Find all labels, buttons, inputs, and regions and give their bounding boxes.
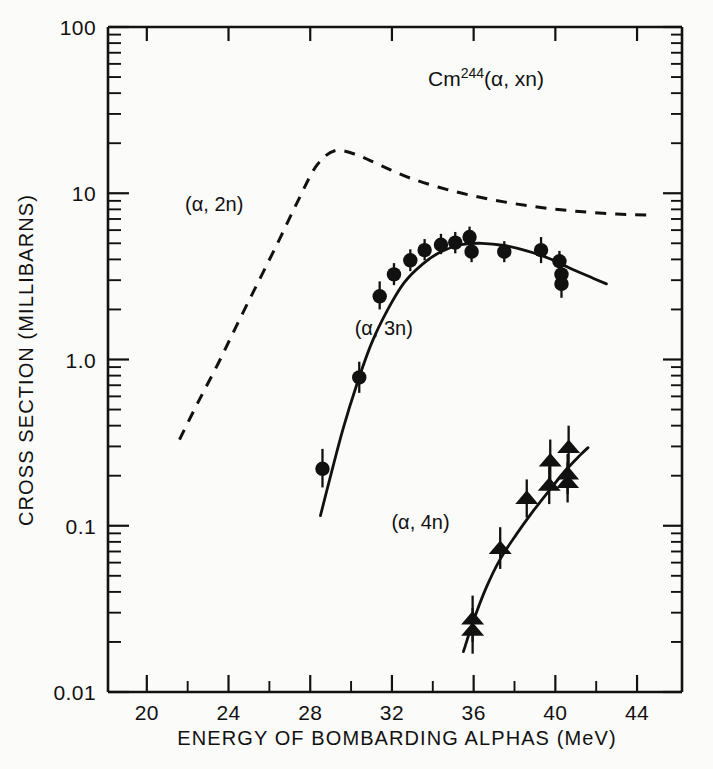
data-point-circle [462,230,476,244]
data-point-triangle [461,611,484,625]
data-point-triangle [557,440,580,454]
series-curve [179,150,649,439]
x-tick-label: 36 [462,701,486,724]
figure-root: 100101.00.10.01 20242832364044 (α, 2n)(α… [0,0,713,769]
data-point-circle [552,254,566,268]
x-tick-label: 32 [380,701,404,724]
data-point-circle [387,267,401,281]
data-point-circle [315,462,329,476]
data-point-circle [534,243,548,257]
y-tick-label: 0.01 [54,681,96,704]
y-axis-title: CROSS SECTION (MILLIBARNS) [15,194,37,526]
data-point-circle [554,277,568,291]
x-tick-label: 24 [216,701,240,724]
x-axis-title: ENERGY OF BOMBARDING ALPHAS (MeV) [177,727,616,749]
data-point-circle [403,253,417,267]
series-label-4n: (α, 4n) [391,511,449,533]
series-label-2n: (α, 2n) [185,193,243,215]
series-2n [179,150,649,439]
data-series-layer [179,150,649,653]
data-point-circle [448,235,462,249]
data-point-triangle [515,490,538,504]
data-point-circle [417,243,431,257]
data-point-circle [352,370,366,384]
data-point-circle [372,289,386,303]
x-tick-label: 20 [135,701,159,724]
x-tick-label: 28 [298,701,322,724]
x-tick-label: 44 [625,701,649,724]
y-axis-tick-labels: 100101.00.10.01 [54,16,96,704]
data-point-circle [464,245,478,259]
data-point-triangle [539,453,562,467]
y-tick-label: 1.0 [66,349,96,372]
y-axis-ticks [108,27,682,692]
series-inline-labels: (α, 2n)(α, 3n)(α, 4n) [185,193,450,533]
y-tick-label: 10 [72,182,96,205]
plot-title: Cm244(α, xn) [428,65,544,90]
data-point-circle [497,245,511,259]
x-axis-tick-labels: 20242832364044 [135,701,649,724]
chart-canvas: 100101.00.10.01 20242832364044 (α, 2n)(α… [0,0,713,769]
axis-frame [108,27,682,692]
y-tick-label: 0.1 [66,515,96,538]
y-tick-label: 100 [60,16,96,39]
series-label-3n: (α, 3n) [355,317,413,339]
x-tick-label: 40 [543,701,567,724]
series-4n [461,426,588,654]
data-point-circle [434,238,448,252]
